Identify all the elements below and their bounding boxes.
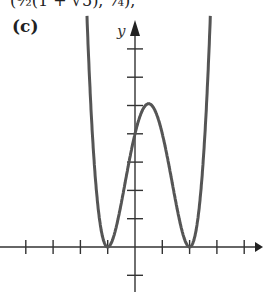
function-graph: y xyxy=(0,0,263,292)
x-axis-arrow-icon xyxy=(255,242,263,252)
y-axis-arrow-icon xyxy=(130,20,140,36)
y-axis-label: y xyxy=(116,22,126,40)
curve xyxy=(87,16,210,247)
